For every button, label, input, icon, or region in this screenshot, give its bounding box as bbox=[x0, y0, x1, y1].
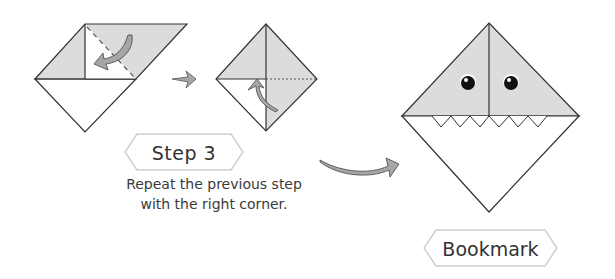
left-eye-icon bbox=[460, 74, 476, 90]
diagram-step-b bbox=[216, 24, 317, 131]
instruction-line-2: with the right corner. bbox=[100, 194, 328, 214]
diagram-step-a bbox=[35, 24, 187, 132]
result-arrow-icon bbox=[320, 158, 399, 177]
next-arrow-icon bbox=[172, 71, 196, 88]
step-label: Step 3 bbox=[125, 140, 243, 166]
step-instruction: Repeat the previous step with the right … bbox=[100, 174, 328, 214]
diagram-bookmark bbox=[402, 23, 579, 212]
instruction-line-1: Repeat the previous step bbox=[100, 174, 328, 194]
bookmark-label: Bookmark bbox=[424, 236, 557, 262]
right-eye-icon bbox=[503, 74, 519, 90]
